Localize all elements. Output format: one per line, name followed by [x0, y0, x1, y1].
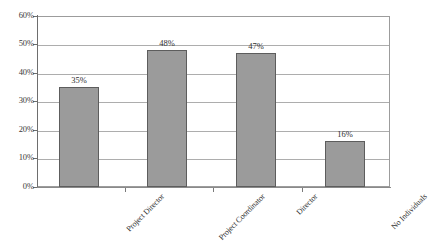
bar-value-label-director: 47% [236, 41, 276, 51]
x-tick-mark-3 [302, 188, 303, 192]
x-category-label-project-director: Project Director [125, 192, 167, 234]
y-tick-label-50: 50% [19, 39, 34, 48]
bar-project-coordinator [147, 50, 187, 187]
bar-no-individuals [325, 141, 365, 187]
x-category-label-project-coordinator: Project Coordinator [217, 192, 267, 242]
y-tick-label-0: 0% [23, 182, 34, 191]
bar-value-label-no-individuals: 16% [325, 129, 365, 139]
x-axis [37, 187, 391, 188]
y-tick-label-20: 20% [19, 125, 34, 134]
gridline-50 [38, 45, 389, 46]
y-tick-label-10: 10% [19, 153, 34, 162]
x-category-label-no-individuals: No Individuals [390, 192, 429, 231]
bar-value-label-project-coordinator: 48% [147, 38, 187, 48]
bar-project-director [59, 87, 99, 187]
y-axis [37, 15, 38, 188]
y-tick-label-40: 40% [19, 68, 34, 77]
bar-director [236, 53, 276, 187]
x-tick-mark-2 [213, 188, 214, 192]
y-tick-label-60: 60% [19, 11, 34, 20]
bar-value-label-project-director: 35% [59, 75, 99, 85]
x-category-label-director: Director [295, 192, 320, 217]
y-tick-label-30: 30% [19, 96, 34, 105]
x-tick-mark-1 [125, 188, 126, 192]
